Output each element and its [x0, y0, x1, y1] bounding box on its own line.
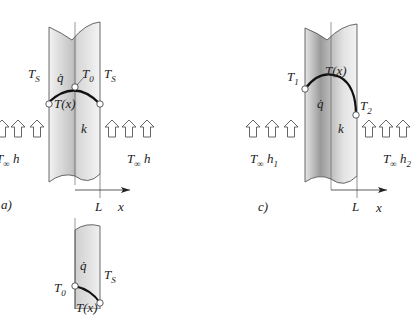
label-t2: T2: [360, 99, 372, 116]
label-fluid-right: T∞ h2: [383, 152, 411, 169]
label-tx: T(x): [325, 64, 347, 77]
label-t1: T1: [287, 70, 299, 87]
label-k: k: [338, 122, 344, 135]
label-fluid-left: T∞ h1: [250, 152, 278, 169]
label-qdot: q̇: [317, 97, 324, 110]
axis-label-x: x: [376, 201, 382, 214]
axis-label-L: L: [352, 200, 359, 213]
panel-c-caption: c): [258, 200, 268, 213]
